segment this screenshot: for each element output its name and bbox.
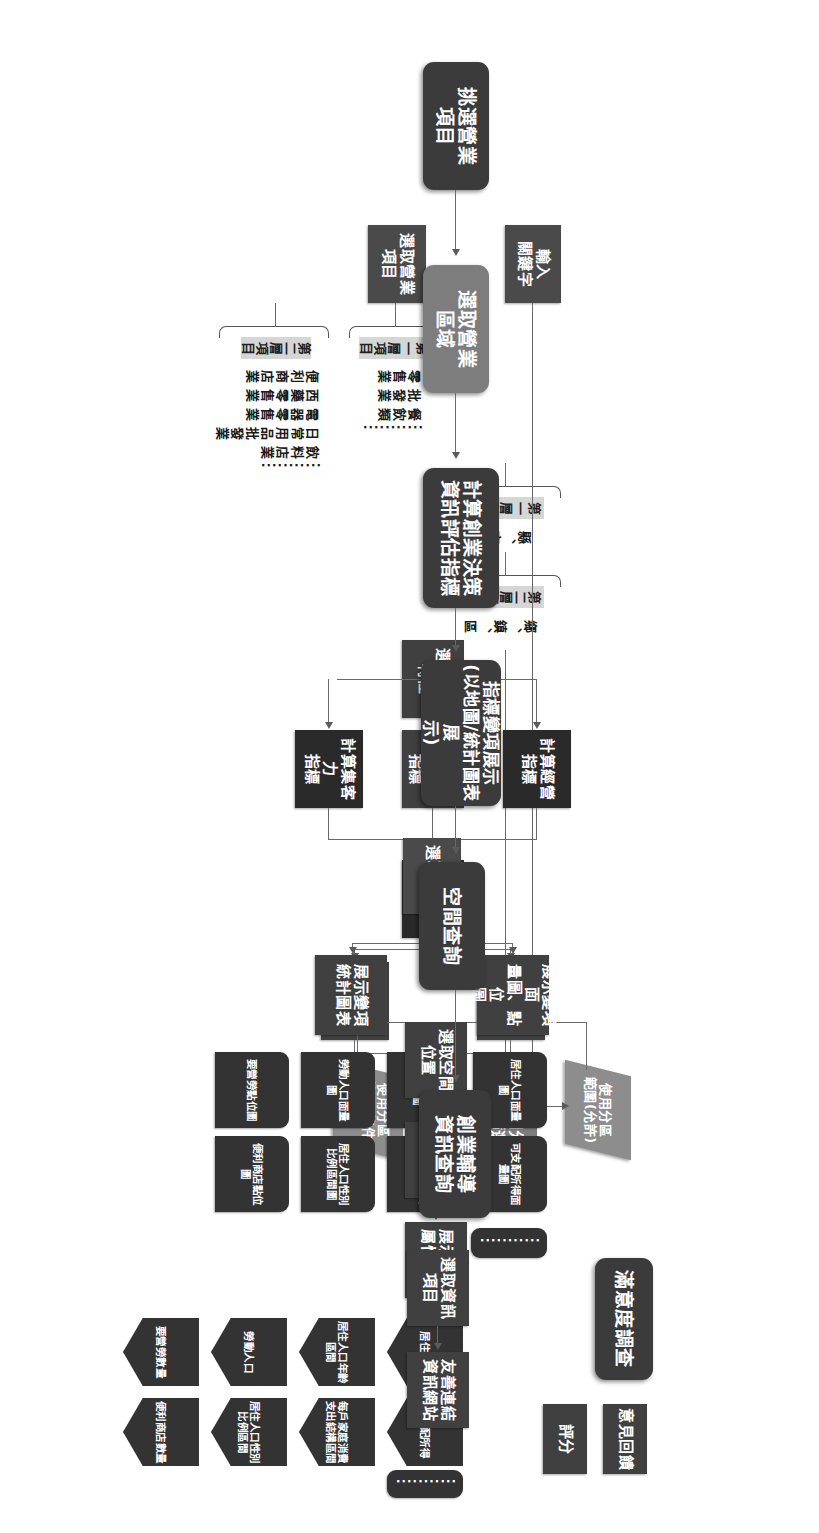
- step-calc-attraction[interactable]: 計算集客力指標: [295, 730, 363, 808]
- spine-3: [455, 608, 456, 646]
- step-input-keyword[interactable]: 輸入關鍵字: [505, 225, 561, 303]
- stage-header-indicator-display[interactable]: 指標變項展示(以地圖/統計圖表展示): [421, 660, 501, 806]
- tier2-item-0: 便利商店業: [244, 366, 319, 385]
- step-friendly-links[interactable]: 友善連結資訊網站: [407, 1352, 469, 1428]
- stage-header-spatial-query[interactable]: 空間查詢: [419, 862, 485, 990]
- arrow-to-var-chart: [350, 947, 358, 954]
- tier1-label-items: 第一層項目: [359, 337, 429, 359]
- tier2-item-3: 日常用品批發業: [214, 423, 319, 442]
- step-select-business-item[interactable]: 選取營業項目: [368, 225, 426, 303]
- step-calc-management[interactable]: 計算經營指標: [503, 730, 571, 808]
- tier2-item-1: 西藥零售業: [244, 385, 319, 404]
- spine-4: [455, 806, 456, 848]
- stage-header-startup-info-query[interactable]: 創業輔導資訊查詢: [419, 1090, 491, 1218]
- arrow-trait-to-attract: [326, 722, 334, 729]
- spine-arrow-3: [453, 645, 461, 652]
- tier2-ellipsis-items: ...........: [260, 461, 321, 475]
- line-trait-to-mgmt: [536, 679, 537, 723]
- step-select-info-item[interactable]: 選取資訊項目: [407, 1250, 469, 1326]
- tier1-item-2: 餐飲類: [376, 404, 421, 423]
- spine-arrow-2: [453, 452, 461, 459]
- spine-arrow-5: [453, 1075, 461, 1082]
- arrow-info-to-links: [435, 1343, 443, 1350]
- tier1-stem-area: [505, 463, 506, 487]
- tier2-item-4: 飲料店業: [259, 442, 319, 461]
- spatial-attribute-ellipsis: ...........: [387, 1470, 463, 1498]
- spatial-attribute-5[interactable]: 每戶家庭消費支出結構區間: [299, 1398, 375, 1466]
- tier2-area-values: 鄉、鎮、區: [462, 616, 537, 635]
- map-variable-6[interactable]: 居住人口性別比例區間圖: [301, 1136, 375, 1212]
- spine-arrow-4: [453, 847, 461, 854]
- stage-header-satisfaction-survey[interactable]: 滿意度調查: [595, 1258, 653, 1380]
- tier2-item-2: 電器零售業: [244, 404, 319, 423]
- map-variable-7[interactable]: 便利商店點位圖: [215, 1136, 289, 1212]
- tier1-stem-items: [395, 303, 396, 327]
- tier2-label-items: 第二層項目: [241, 337, 311, 359]
- tier1-item-1: 批發業: [376, 385, 421, 404]
- zoning-allowed-label: 使用分區範圍(允許): [583, 1077, 614, 1144]
- map-variable-ellipsis-dots: ...........: [478, 1236, 539, 1250]
- arrow-to-var-map: [510, 947, 518, 954]
- map-variable-3[interactable]: 要營勞點位圖: [215, 1052, 289, 1128]
- map-variable-2[interactable]: 勞動人口面量圖: [301, 1052, 375, 1128]
- diagram-canvas: 挑選營業項目 輸入關鍵字 選取營業項目 第一層項目 零售業 批發業 餐飲類 ..…: [0, 0, 819, 1533]
- step-show-variable-map[interactable]: 展示變項面量圖、點位圖: [477, 955, 549, 1035]
- spatial-attribute-ellipsis-dots: ...........: [394, 1477, 455, 1491]
- diagram-stage: 挑選營業項目 輸入關鍵字 選取營業項目 第一層項目 零售業 批發業 餐飲類 ..…: [0, 0, 819, 1533]
- arrow-landuse-to-zoning: [562, 1102, 569, 1110]
- tier1-ellipsis-items: ...........: [362, 423, 423, 437]
- step-select-spatial-location[interactable]: 選取空間位置: [405, 1022, 467, 1098]
- step-feedback[interactable]: 意見回饋: [603, 1404, 647, 1474]
- spatial-attribute-7[interactable]: 便利商店數量: [123, 1398, 199, 1466]
- map-variable-ellipsis: ...........: [471, 1228, 547, 1258]
- stage-header-pick-business-item[interactable]: 挑選營業項目: [423, 62, 489, 190]
- step-rating[interactable]: 評分: [543, 1404, 587, 1474]
- stage-header-pick-business-area[interactable]: 選取營業區域: [423, 265, 489, 393]
- line-mgmt-to-merge: [536, 808, 537, 840]
- line-attract-to-merge: [328, 808, 329, 840]
- spine-5: [455, 990, 456, 1076]
- spine-2: [455, 393, 456, 453]
- spine-1: [455, 190, 456, 250]
- spine-arrow-1: [453, 249, 461, 256]
- stage-header-calc-startup-decision[interactable]: 計算創業決策資訊評估指標: [423, 468, 499, 608]
- spatial-attribute-3[interactable]: 要營勞數量: [123, 1318, 199, 1386]
- line-zoning-bracket-h1: [586, 1022, 587, 1070]
- parallelogram-zoning-allowed[interactable]: 使用分區範圍(允許): [565, 1060, 631, 1160]
- spatial-attribute-1[interactable]: 居住人口年齡區間: [299, 1318, 375, 1386]
- arrow-trait-to-mgmt: [534, 722, 542, 729]
- line-trait-to-attract: [328, 679, 329, 723]
- tier2-stem-items: [275, 303, 276, 327]
- line-info-to-links: [437, 1326, 438, 1344]
- tier1-item-0: 零售業: [376, 366, 421, 385]
- spatial-attribute-6[interactable]: 居住人口性別比例區間: [211, 1398, 287, 1466]
- spatial-attribute-2[interactable]: 勞動人口: [211, 1318, 287, 1386]
- tier2-stem-area: [505, 552, 506, 576]
- step-show-variable-chart[interactable]: 展示變項統計圖表: [315, 955, 387, 1035]
